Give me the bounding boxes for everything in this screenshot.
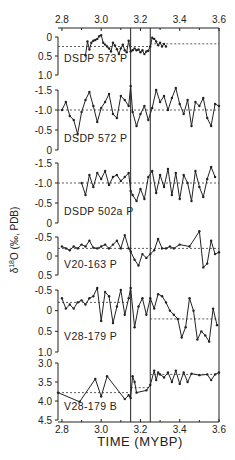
data-point [210, 379, 212, 381]
data-point [124, 99, 126, 101]
data-point [157, 293, 159, 295]
y-tick-label: 1.0 [38, 70, 52, 81]
data-point [198, 374, 200, 376]
data-point [108, 47, 110, 49]
y-tick-label: -0.5 [35, 285, 53, 296]
data-point [129, 85, 131, 87]
data-point [94, 378, 96, 380]
data-point [175, 87, 177, 89]
data-point [120, 289, 122, 291]
data-point [127, 172, 129, 174]
data-point [104, 43, 106, 45]
data-point [65, 101, 67, 103]
data-point [92, 246, 94, 248]
data-point [96, 38, 98, 40]
data-point [133, 381, 135, 383]
data-point [131, 375, 133, 377]
data-point [179, 383, 181, 385]
data-point [179, 103, 181, 105]
data-point [145, 314, 147, 316]
data-point [182, 113, 184, 115]
data-point [214, 373, 216, 375]
data-point [96, 172, 98, 174]
data-point [80, 111, 82, 113]
data-point [145, 257, 147, 259]
x-axis-label: TIME (MYBP) [97, 434, 183, 449]
y-tick-label: 3.0 [38, 358, 52, 369]
y-axis-label-rest: O (‰, PDB) [9, 207, 20, 260]
data-point [163, 43, 165, 45]
panel-v28-179-p: -0.500.51.0V28-179 P [35, 285, 219, 358]
data-point [124, 398, 126, 400]
data-point [153, 307, 155, 309]
data-point [157, 238, 159, 240]
data-point [129, 287, 131, 289]
data-point [137, 48, 139, 50]
data-point [182, 174, 184, 176]
data-point [112, 113, 114, 115]
data-point [163, 376, 165, 378]
data-point [171, 97, 173, 99]
data-point [216, 324, 218, 326]
data-point [133, 326, 135, 328]
data-point [135, 125, 137, 127]
data-point [84, 194, 86, 196]
data-point [155, 192, 157, 194]
data-point [69, 249, 71, 251]
data-point [218, 371, 220, 373]
data-point [129, 397, 131, 399]
data-point [120, 180, 122, 182]
data-point [116, 48, 118, 50]
data-point [163, 186, 165, 188]
y-tick-label: -1.0 [35, 178, 53, 189]
data-point [124, 314, 126, 316]
y-tick-label: 0 [46, 32, 52, 43]
data-point [102, 42, 104, 44]
panels: 00.51.0DSDP 573 P-1.5-1.0-0.50DSDP 572 P… [35, 32, 220, 426]
data-point [159, 42, 161, 44]
data-point [122, 43, 124, 45]
data-point [186, 381, 188, 383]
data-point [175, 172, 177, 174]
y-tick-label: 4.0 [38, 396, 52, 407]
data-point [179, 198, 181, 200]
data-point [61, 297, 63, 299]
data-point [161, 247, 163, 249]
data-point [171, 194, 173, 196]
data-point [112, 42, 114, 44]
data-point [204, 334, 206, 336]
data-point [88, 297, 90, 299]
panel-label: DSDP 573 P [64, 52, 127, 64]
data-point [96, 287, 98, 289]
data-point [139, 51, 141, 53]
data-point [104, 243, 106, 245]
data-point [108, 93, 110, 95]
data-point [212, 307, 214, 309]
y-tick-label: -0.5 [35, 198, 53, 209]
data-point [131, 111, 133, 113]
data-point [80, 243, 82, 245]
data-point [112, 176, 114, 178]
data-point [108, 247, 110, 249]
data-point [133, 259, 135, 261]
data-point [147, 49, 149, 51]
y-axis-label-sup: 18 [8, 260, 15, 268]
y-tick-label: 0 [46, 305, 52, 316]
data-point [100, 178, 102, 180]
data-point [165, 247, 167, 249]
data-point [159, 101, 161, 103]
data-point [112, 322, 114, 324]
panel-label: V28-179 P [64, 330, 117, 342]
data-point [171, 381, 173, 383]
data-point [61, 109, 63, 111]
panel-label: V28-179 B [64, 400, 117, 412]
panel-dsdp-572-p: -1.5-1.0-0.50DSDP 572 P [35, 85, 220, 156]
data-point [96, 247, 98, 249]
data-point [206, 178, 208, 180]
panel-label: V20-163 P [64, 258, 117, 270]
data-point [100, 245, 102, 247]
data-point [112, 243, 114, 245]
data-point [76, 301, 78, 303]
data-point [84, 303, 86, 305]
data-point [100, 395, 102, 397]
